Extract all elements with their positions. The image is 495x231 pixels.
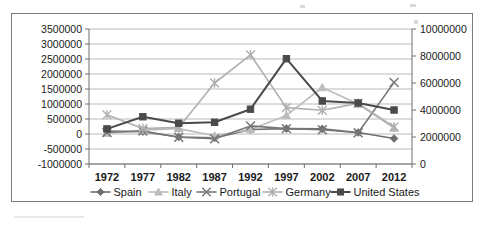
primary-tick-label: -500000 — [43, 143, 82, 155]
marker-square — [338, 189, 344, 195]
marker-diamond — [97, 188, 104, 195]
legend-label: Germany — [286, 186, 332, 198]
secondary-tick-label: 6000000 — [420, 77, 461, 89]
secondary-tick-label: 8000000 — [420, 50, 461, 62]
marker-square — [247, 106, 253, 112]
marker-square — [283, 56, 289, 62]
primary-tick-label: 1500000 — [41, 83, 82, 95]
marker-asterisk — [103, 110, 112, 120]
marker-square — [338, 189, 344, 195]
primary-tick-label: 3000000 — [41, 38, 82, 50]
marker-square — [104, 126, 110, 132]
scan-artifact-1 — [300, 5, 305, 8]
secondary-tick-label: 10000000 — [420, 23, 467, 35]
category-label: 2007 — [346, 171, 370, 183]
marker-diamond — [390, 135, 398, 143]
marker-asterisk — [210, 78, 219, 88]
marker-triangle — [318, 84, 326, 91]
marker-square — [140, 114, 146, 120]
gridlines-group — [89, 29, 412, 164]
secondary-tick-label: 4000000 — [420, 104, 461, 116]
primary-tick-label: 0 — [76, 128, 82, 140]
category-label: 2002 — [310, 171, 334, 183]
marker-diamond — [390, 135, 398, 143]
category-label: 1992 — [238, 171, 262, 183]
secondary-tick-label: 2000000 — [420, 131, 461, 143]
series-germany — [103, 50, 399, 133]
series-united-states — [104, 56, 398, 133]
marker-square — [355, 100, 361, 106]
primary-tick-label: 3500000 — [41, 23, 82, 35]
marker-square — [319, 98, 325, 104]
category-label: 1972 — [95, 171, 119, 183]
legend-label: Spain — [114, 186, 142, 198]
marker-square — [391, 107, 397, 113]
scan-artifact-2 — [410, 4, 416, 7]
chart-screenshot: 3500000300000025000002000000150000010000… — [0, 0, 495, 231]
primary-tick-label: 500000 — [47, 113, 82, 125]
secondary-axis-group: 1000000080000006000000400000020000000 — [412, 23, 467, 170]
marker-square — [391, 107, 397, 113]
marker-triangle — [318, 84, 326, 91]
marker-square — [140, 114, 146, 120]
legend-label: Italy — [172, 186, 193, 198]
primary-axis-group: 3500000300000025000002000000150000010000… — [38, 23, 89, 170]
series-line — [107, 59, 394, 129]
marker-square — [211, 119, 217, 125]
marker-square — [247, 106, 253, 112]
marker-square — [319, 98, 325, 104]
primary-tick-label: -1000000 — [38, 158, 83, 170]
legend-item-spain[interactable]: Spain — [91, 186, 142, 198]
category-label: 1977 — [131, 171, 155, 183]
chart-frame: 3500000300000025000002000000150000010000… — [11, 13, 473, 202]
marker-square — [176, 120, 182, 126]
category-label: 1997 — [274, 171, 298, 183]
category-axis-group: 197219771982198719921997200220072012 — [89, 164, 412, 183]
line-chart: 3500000300000025000002000000150000010000… — [12, 14, 472, 201]
category-label: 2012 — [382, 171, 406, 183]
marker-square — [211, 119, 217, 125]
scan-artifact-4 — [14, 216, 84, 218]
primary-tick-label: 2500000 — [41, 53, 82, 65]
marker-asterisk — [246, 50, 255, 60]
legend: SpainItalyPortugalGermanyUnited States — [91, 186, 421, 198]
marker-square — [176, 120, 182, 126]
legend-item-germany[interactable]: Germany — [263, 186, 332, 198]
primary-tick-label: 1000000 — [41, 98, 82, 110]
primary-tick-label: 2000000 — [41, 68, 82, 80]
secondary-tick-label: 0 — [420, 158, 426, 170]
legend-label: United States — [354, 186, 421, 198]
legend-item-portugal[interactable]: Portugal — [197, 186, 261, 198]
legend-item-italy[interactable]: Italy — [149, 186, 193, 198]
category-label: 1982 — [166, 171, 190, 183]
legend-label: Portugal — [220, 186, 261, 198]
scan-artifact-3 — [414, 20, 418, 24]
marker-diamond — [97, 188, 104, 195]
category-label: 1987 — [202, 171, 226, 183]
legend-item-united-states[interactable]: United States — [331, 186, 421, 198]
marker-x-star — [390, 78, 399, 87]
marker-square — [104, 126, 110, 132]
marker-square — [283, 56, 289, 62]
marker-square — [355, 100, 361, 106]
